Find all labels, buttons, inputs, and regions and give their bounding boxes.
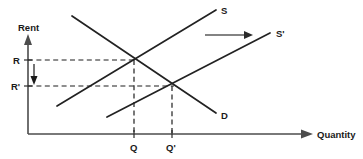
y-tick-label-R: R: [13, 55, 20, 66]
supply-shifted-curve: [107, 33, 270, 117]
diagram-canvas: Rent Quantity R R' Q Q' S S' D: [0, 0, 363, 159]
y-tick-label-R-prime: R': [11, 81, 20, 92]
supply-demand-diagram: Rent Quantity R R' Q Q' S S' D: [0, 0, 363, 159]
x-tick-label-Q: Q: [130, 142, 137, 153]
demand-curve-label: D: [221, 110, 228, 121]
x-axis-arrowhead: [301, 130, 313, 139]
x-tick-label-Q-prime: Q': [166, 142, 176, 153]
supply-shifted-curve-label: S': [276, 28, 285, 39]
supply-curve: [57, 10, 216, 106]
rent-decrease-arrow-head: [31, 76, 38, 85]
x-axis-label: Quantity: [317, 129, 356, 140]
y-axis-arrowhead: [24, 34, 32, 45]
supply-curve-label: S: [221, 5, 227, 16]
supply-shift-arrow-head: [244, 31, 253, 39]
y-axis-label: Rent: [18, 22, 40, 33]
